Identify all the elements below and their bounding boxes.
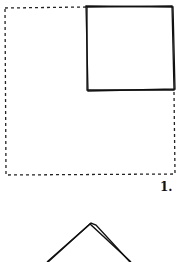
figure-label: 1. [160, 180, 173, 194]
chevron-shape [47, 223, 131, 262]
diagram-canvas [0, 0, 178, 262]
solid-square [86, 6, 175, 91]
